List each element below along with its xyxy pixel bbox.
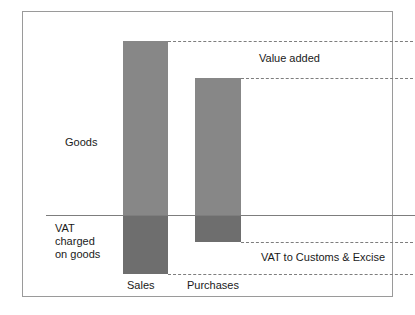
bar-purchases-goods-segment (195, 78, 241, 215)
vat-baseline (46, 215, 415, 216)
bar-sales-vat-segment (123, 215, 168, 274)
axis-label-sales: Sales (127, 279, 155, 292)
bar-sales-goods-segment (123, 41, 168, 215)
bar-purchases (195, 78, 241, 242)
dashed-line-purchases-bottom (241, 242, 413, 243)
bar-purchases-vat-segment (195, 215, 241, 242)
dashed-line-sales-bottom (168, 274, 413, 275)
label-goods: Goods (65, 136, 97, 149)
axis-label-purchases: Purchases (187, 279, 239, 292)
figure-frame: Goods VAT charged on goods Value added V… (22, 11, 393, 297)
bar-sales (123, 41, 168, 274)
label-value-added: Value added (259, 52, 320, 65)
label-vat-to-customs-and-excise: VAT to Customs & Excise (261, 251, 385, 264)
label-vat-charged-on-goods: VAT charged on goods (55, 222, 100, 261)
dashed-line-sales-top (168, 41, 413, 42)
dashed-line-purchases-top (241, 78, 413, 79)
